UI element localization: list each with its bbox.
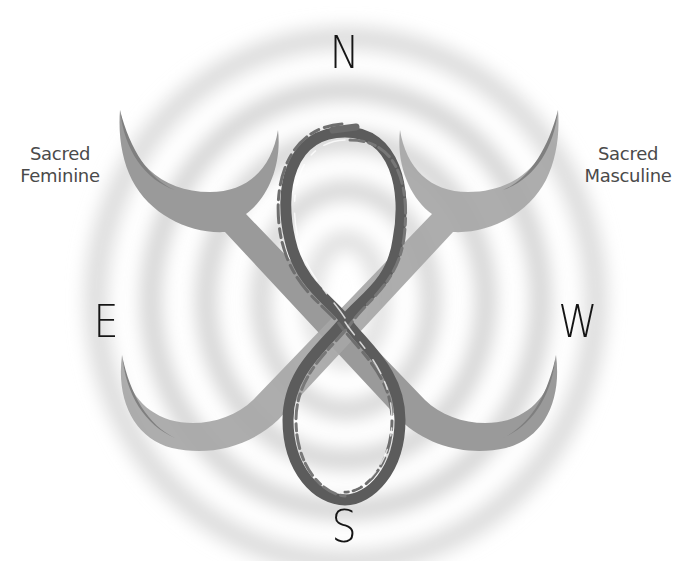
sacred-feminine-line1: Sacred [14, 143, 106, 165]
direction-west: W [558, 300, 597, 344]
direction-south: S [331, 505, 356, 549]
sacred-masculine-label: Sacred Masculine [578, 143, 678, 187]
direction-east: E [93, 300, 118, 344]
direction-north: N [330, 31, 360, 75]
compass-diagram: N E W S Sacred Feminine Sacred Masculine [0, 0, 690, 561]
sacred-feminine-label: Sacred Feminine [14, 143, 106, 187]
sacred-feminine-line2: Feminine [14, 165, 106, 187]
sacred-masculine-line2: Masculine [578, 165, 678, 187]
sacred-masculine-line1: Sacred [578, 143, 678, 165]
infinity-figure-eight-icon [0, 0, 690, 561]
